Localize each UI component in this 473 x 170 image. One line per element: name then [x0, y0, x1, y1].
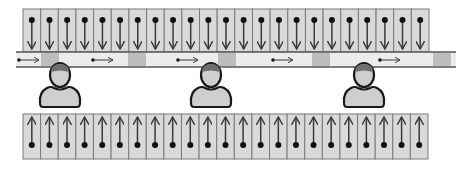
dot-icon — [99, 17, 105, 23]
top-grid-cell — [252, 9, 270, 52]
dot-icon — [29, 142, 35, 148]
dot-icon — [82, 17, 88, 23]
top-grid-cell — [164, 9, 182, 52]
dot-icon — [258, 17, 264, 23]
bottom-grid-cell — [41, 114, 59, 159]
dot-icon — [311, 17, 317, 23]
bottom-grid-cell — [58, 114, 76, 159]
top-grid-cell — [111, 9, 129, 52]
bottom-grid — [23, 114, 428, 159]
bottom-grid-cell — [93, 114, 111, 159]
belt-item — [218, 53, 236, 66]
bottom-grid-cell — [217, 114, 235, 159]
bottom-grid-cell — [322, 114, 340, 159]
person-icon — [40, 63, 80, 107]
dot-icon — [170, 17, 176, 23]
top-grid-cell — [358, 9, 376, 52]
dot-icon — [329, 17, 335, 23]
top-grid-cell — [76, 9, 94, 52]
dot-icon — [364, 17, 370, 23]
dot-icon — [187, 142, 193, 148]
bottom-grid-cell — [358, 114, 376, 159]
dot-icon — [346, 142, 352, 148]
bottom-grid-cell — [340, 114, 358, 159]
dot-icon — [417, 17, 423, 23]
bottom-grid-cell — [111, 114, 129, 159]
dot-icon — [276, 17, 282, 23]
dot-icon — [241, 17, 247, 23]
dot-icon — [275, 142, 281, 148]
dot-icon — [258, 142, 264, 148]
bottom-grid-cell — [305, 114, 323, 159]
dot-icon — [311, 142, 317, 148]
top-grid-cell — [323, 9, 341, 52]
dot-icon — [223, 17, 229, 23]
dot-icon — [117, 17, 123, 23]
dot-icon — [170, 142, 176, 148]
dot-icon — [328, 142, 334, 148]
belt-item — [128, 53, 146, 66]
dot-icon — [205, 17, 211, 23]
bottom-grid-cell — [164, 114, 182, 159]
dot-icon — [152, 142, 158, 148]
top-grid-cell — [288, 9, 306, 52]
dot-icon — [29, 17, 35, 23]
bottom-grid-cell — [393, 114, 411, 159]
top-grid-cell — [270, 9, 288, 52]
bottom-grid-cell — [76, 114, 94, 159]
dot-icon — [64, 142, 70, 148]
dot-icon — [416, 142, 422, 148]
workers — [40, 63, 384, 107]
conveyor-belt — [16, 52, 456, 67]
top-grid-cell — [129, 9, 147, 52]
bottom-grid-cell — [181, 114, 199, 159]
dot-icon — [117, 142, 123, 148]
bottom-grid-cell — [199, 114, 217, 159]
dot-icon — [46, 142, 52, 148]
top-grid-cell — [147, 9, 165, 52]
dot-icon — [294, 17, 300, 23]
dot-icon — [46, 17, 52, 23]
dot-icon — [223, 142, 229, 148]
bottom-grid-cell — [129, 114, 147, 159]
top-grid-cell — [182, 9, 200, 52]
top-grid-cell — [200, 9, 218, 52]
conveyor-diagram — [0, 0, 473, 170]
top-grid-cell — [341, 9, 359, 52]
top-grid — [23, 9, 429, 52]
bottom-grid-cell — [410, 114, 428, 159]
bottom-grid-cell — [287, 114, 305, 159]
top-grid-cell — [58, 9, 76, 52]
top-grid-cell — [217, 9, 235, 52]
dot-icon — [82, 142, 88, 148]
dot-icon — [64, 17, 70, 23]
dot-icon — [293, 142, 299, 148]
bottom-grid-cell — [270, 114, 288, 159]
person-icon — [344, 63, 384, 107]
bottom-grid-cell — [146, 114, 164, 159]
top-grid-cell — [23, 9, 41, 52]
top-grid-cell — [376, 9, 394, 52]
bottom-grid-cell — [375, 114, 393, 159]
dot-icon — [99, 142, 105, 148]
dot-icon — [134, 142, 140, 148]
bottom-grid-cell — [23, 114, 41, 159]
top-grid-cell — [305, 9, 323, 52]
dot-icon — [205, 142, 211, 148]
dot-icon — [399, 142, 405, 148]
top-grid-cell — [94, 9, 112, 52]
dot-icon — [135, 17, 141, 23]
top-grid-cell — [235, 9, 253, 52]
top-grid-cell — [394, 9, 412, 52]
dot-icon — [381, 142, 387, 148]
dot-icon — [363, 142, 369, 148]
bottom-grid-cell — [234, 114, 252, 159]
dot-icon — [240, 142, 246, 148]
dot-icon — [152, 17, 158, 23]
dot-icon — [400, 17, 406, 23]
person-icon — [191, 63, 231, 107]
top-grid-cell — [41, 9, 59, 52]
bottom-grid-cell — [252, 114, 270, 159]
dot-icon — [382, 17, 388, 23]
belt-item — [312, 53, 330, 66]
